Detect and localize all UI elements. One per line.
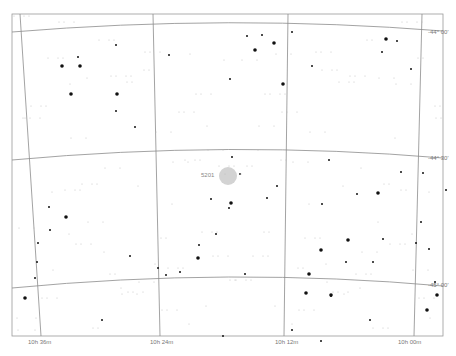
dec-label-45-00: -45° 00' xyxy=(428,282,449,288)
ra-label-1024: 10h 24m xyxy=(150,339,173,345)
object-label: 5201 xyxy=(201,172,214,178)
ra-label-1000: 10h 00m xyxy=(398,339,421,345)
dec-label-44-30: -44° 30' xyxy=(428,155,449,161)
star-chart[interactable]: 5201 10h 36m 10h 24m 10h 12m 10h 00m -44… xyxy=(0,0,456,356)
ra-label-1012: 10h 12m xyxy=(275,339,298,345)
ra-label-1036: 10h 36m xyxy=(28,339,51,345)
galaxy-object-icon[interactable] xyxy=(219,167,237,185)
dec-label-44-00: -44° 00' xyxy=(428,29,449,35)
dec-grid-lines xyxy=(12,23,443,288)
star-field xyxy=(0,0,456,356)
